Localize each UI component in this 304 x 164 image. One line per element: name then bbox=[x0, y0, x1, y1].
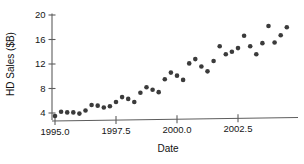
data-point bbox=[114, 100, 119, 105]
y-axis-tick-label: 12 bbox=[35, 58, 46, 69]
data-point bbox=[132, 100, 137, 105]
scatter-chart-figure: 48121620 1995.01997.52000.02002.5 HD Sal… bbox=[0, 0, 304, 164]
data-point bbox=[236, 46, 241, 51]
data-point bbox=[224, 52, 229, 57]
data-point bbox=[71, 110, 76, 115]
data-point bbox=[266, 24, 271, 29]
data-point bbox=[285, 25, 290, 30]
plot-area: 48121620 1995.01997.52000.02002.5 HD Sal… bbox=[0, 0, 304, 164]
y-axis-tick-label: 4 bbox=[40, 107, 45, 118]
data-point bbox=[169, 70, 174, 75]
data-point bbox=[150, 87, 155, 92]
data-point bbox=[95, 103, 100, 108]
data-point bbox=[59, 109, 64, 114]
data-point bbox=[254, 52, 259, 57]
y-axis-title: HD Sales ($B) bbox=[5, 32, 16, 96]
data-point bbox=[242, 34, 247, 39]
data-point bbox=[156, 90, 161, 95]
y-axis-tick-label: 16 bbox=[35, 34, 46, 45]
data-point bbox=[120, 95, 125, 100]
data-point bbox=[272, 40, 277, 45]
y-axis: 48121620 bbox=[35, 9, 56, 120]
data-point bbox=[181, 78, 186, 83]
data-point bbox=[144, 85, 149, 90]
data-point bbox=[83, 108, 88, 113]
data-points-group bbox=[53, 24, 289, 119]
y-axis-tick-label: 8 bbox=[40, 83, 45, 94]
data-point bbox=[126, 97, 131, 102]
data-point bbox=[175, 73, 180, 78]
x-axis-title: Date bbox=[157, 143, 179, 154]
data-point bbox=[53, 114, 58, 119]
data-point bbox=[199, 64, 204, 69]
data-point bbox=[163, 77, 168, 82]
data-point bbox=[89, 103, 94, 108]
x-axis-spine bbox=[52, 118, 298, 122]
y-axis-tick-label: 20 bbox=[35, 9, 46, 20]
x-axis-tick-label: 2002.5 bbox=[223, 123, 252, 134]
data-point bbox=[205, 69, 210, 74]
x-axis-tick-label: 2000.0 bbox=[162, 124, 191, 135]
data-point bbox=[230, 49, 235, 54]
x-axis-tick-label: 1995.0 bbox=[40, 126, 69, 137]
x-axis: 1995.01997.52000.02002.5 bbox=[40, 114, 298, 137]
data-point bbox=[65, 110, 70, 115]
data-point bbox=[260, 41, 265, 46]
data-point bbox=[217, 44, 222, 49]
x-axis-tick-label: 1997.5 bbox=[101, 125, 130, 136]
data-point bbox=[187, 61, 192, 66]
data-point bbox=[77, 111, 82, 116]
data-point bbox=[108, 104, 113, 109]
data-point bbox=[102, 105, 107, 110]
data-point bbox=[278, 33, 283, 38]
data-point bbox=[211, 59, 216, 64]
data-point bbox=[248, 44, 253, 49]
data-point bbox=[193, 57, 198, 62]
data-point bbox=[138, 90, 143, 95]
